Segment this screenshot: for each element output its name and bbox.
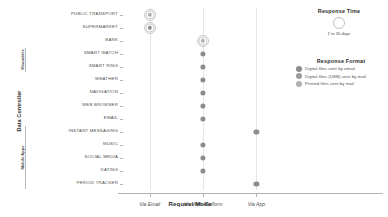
data-point[interactable]: [254, 129, 259, 134]
legend-item-label: Printed files sent by mail: [305, 81, 354, 86]
legend-swatch-icon: [296, 66, 302, 72]
legend-response-time: Response Time 1 to 30 days: [296, 8, 382, 36]
legend-response-time-swatches: [296, 14, 382, 31]
data-point[interactable]: [200, 116, 205, 121]
y-axis-tick-label: SMART RING: [18, 64, 118, 68]
y-axis-tick-label: BANK: [18, 38, 118, 42]
data-point[interactable]: [200, 64, 205, 69]
y-axis-tick-label: INSTANT MESSAGING: [18, 129, 118, 133]
plot-area: Via EmailVia Web PlatformVia App: [123, 8, 283, 190]
y-axis-tick-label: MUSIC: [18, 142, 118, 146]
legend-item-label: Digital files sent by email: [305, 66, 355, 71]
y-axis-tick: [120, 15, 123, 16]
data-point[interactable]: [200, 51, 205, 56]
y-axis-tick-label: SOCIAL MEDIA: [18, 155, 118, 159]
x-axis-line: [118, 193, 383, 194]
y-axis-tick: [120, 54, 123, 55]
x-axis-tick: [150, 194, 151, 197]
y-axis-tick-label: PERIOD TRACKER: [18, 181, 118, 185]
y-axis-tick: [120, 119, 123, 120]
y-axis-tick: [120, 80, 123, 81]
data-point[interactable]: [254, 181, 259, 186]
legend-response-time-caption: 1 to 30 days: [296, 31, 382, 36]
legend-swatch-icon: [296, 73, 302, 79]
y-axis-tick-labels: PUBLIC TRANSPORTSUPERMARKETBANKSMART WAT…: [18, 0, 118, 195]
legend-item[interactable]: Printed files sent by mail: [296, 81, 386, 87]
data-point[interactable]: [200, 142, 205, 147]
x-axis-tick: [203, 194, 204, 197]
legend-response-format: Response Format Digital files sent by em…: [296, 58, 386, 87]
y-axis-tick: [120, 184, 123, 185]
legend-response-format-title: Response Format: [296, 58, 386, 64]
y-axis-tick: [120, 106, 123, 107]
x-axis-tick: [256, 194, 257, 197]
legend-response-format-items: Digital files sent by emailDigital files…: [296, 66, 386, 87]
y-axis-tick: [120, 67, 123, 68]
x-gridline: [150, 8, 151, 190]
y-axis-tick-label: PUBLIC TRANSPORT: [18, 12, 118, 16]
y-axis-tick-label: NAVIGATION: [18, 90, 118, 94]
legend-item-label: Digital files (USB) sent by mail: [305, 74, 366, 79]
legend-item[interactable]: Digital files sent by email: [296, 66, 386, 72]
data-point[interactable]: [200, 155, 205, 160]
data-point[interactable]: [200, 90, 205, 95]
legend-size-circle-large: [333, 17, 345, 29]
data-point[interactable]: [200, 103, 205, 108]
y-axis-tick: [120, 41, 123, 42]
x-axis-title: Request Mode: [100, 201, 280, 207]
y-axis-tick-label: WEB BROWSER: [18, 103, 118, 107]
y-axis-tick-label: DATING: [18, 168, 118, 172]
y-axis-tick-label: SUPERMARKET: [18, 25, 118, 29]
y-axis-tick: [120, 145, 123, 146]
y-axis-tick: [120, 93, 123, 94]
y-axis-tick-label: EMAIL: [18, 116, 118, 120]
x-gridline: [256, 8, 257, 190]
legend-item[interactable]: Digital files (USB) sent by mail: [296, 73, 386, 79]
y-axis-tick-label: WEATHER: [18, 77, 118, 81]
data-point[interactable]: [200, 168, 205, 173]
y-axis-tick: [120, 28, 123, 29]
chart-root: Data Controller WearablesMobile Apps PUB…: [0, 0, 388, 217]
y-axis-tick: [120, 158, 123, 159]
y-axis-tick-label: SMART WATCH: [18, 51, 118, 55]
y-axis-tick: [120, 171, 123, 172]
legend-swatch-icon: [296, 81, 302, 87]
y-axis-tick: [120, 132, 123, 133]
data-point[interactable]: [200, 77, 205, 82]
